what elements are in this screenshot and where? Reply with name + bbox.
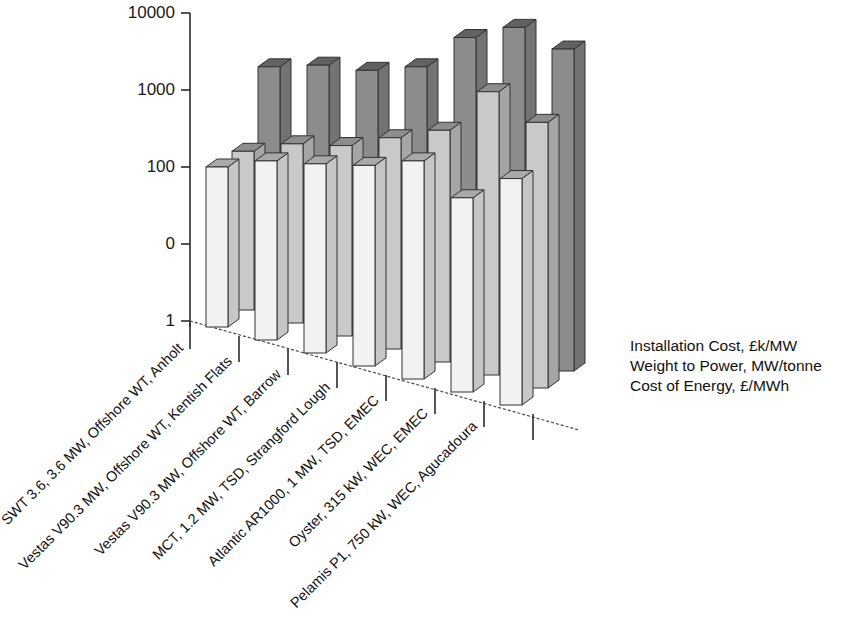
bar-side-face xyxy=(424,153,435,379)
bar-front-face xyxy=(451,198,473,392)
bar-front-face xyxy=(353,165,375,366)
bar-front-face xyxy=(500,179,522,405)
y-axis-tick-label: 0 xyxy=(166,234,175,253)
bar-side-face xyxy=(228,159,239,327)
bar-7-series-1 xyxy=(500,171,533,405)
y-axis-tick-labels: 10000100010001 xyxy=(128,3,175,330)
bar-6-series-1 xyxy=(451,190,484,392)
bar-4-series-1 xyxy=(353,157,386,366)
bar-side-face xyxy=(326,156,337,353)
bar-1-series-1 xyxy=(206,159,239,327)
chart-legend: Installation Cost, £k/MWWeight to Power,… xyxy=(630,337,822,394)
bar-front-face xyxy=(206,167,228,327)
bar-side-face xyxy=(548,114,559,388)
bar-side-face xyxy=(574,41,585,371)
bar-front-face xyxy=(255,161,277,340)
legend-entry-label: Installation Cost, £k/MW xyxy=(630,337,797,354)
bar-side-face xyxy=(277,153,288,340)
bar-side-face xyxy=(522,171,533,405)
y-axis-tick-label: 1000 xyxy=(137,80,175,99)
bar-front-face xyxy=(304,164,326,353)
bar-front-face xyxy=(402,161,424,379)
legend-entry-label: Weight to Power, MW/tonne xyxy=(630,357,822,374)
legend-entry-label: Cost of Energy, £/MWh xyxy=(630,377,789,394)
bar-2-series-1 xyxy=(255,153,288,340)
y-axis-tick-label: 100 xyxy=(147,157,175,176)
bar-series-group xyxy=(206,19,585,405)
chart-canvas: 10000100010001 SWT 3.6, 3.6 MW, Offshore… xyxy=(0,0,851,637)
x-axis-category-label: Vestas V90.3 MW, Offshore WT, Kentish Fl… xyxy=(15,353,235,573)
bar-side-face xyxy=(473,190,484,392)
chart-figure: 10000100010001 SWT 3.6, 3.6 MW, Offshore… xyxy=(0,0,851,637)
x-axis-category-labels: SWT 3.6, 3.6 MW, Offshore WT, AnholtVest… xyxy=(0,340,481,611)
y-axis-tick-label: 10000 xyxy=(128,3,175,22)
y-axis-tick-label: 1 xyxy=(166,311,175,330)
y-axis xyxy=(181,13,190,327)
bar-side-face xyxy=(375,157,386,366)
bar-3-series-1 xyxy=(304,156,337,353)
bar-5-series-1 xyxy=(402,153,435,379)
